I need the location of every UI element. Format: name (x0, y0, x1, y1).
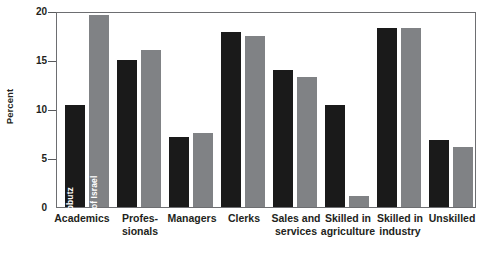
x-label-unskilled-line1: Unskilled (429, 212, 476, 224)
bar-kibbutz-academics: Kibbutz (65, 105, 85, 207)
bar-kibbutz-skilled-in-industry (377, 28, 397, 207)
bar-rest-of-israel-skilled-in-agriculture (349, 196, 369, 207)
y-tick-mark-15 (48, 61, 56, 62)
bar-rest-of-israel-clerks (245, 36, 265, 208)
x-label-professionals-line2: sionals (102, 225, 178, 238)
x-label-skilled-in-industry-line2: industry (362, 225, 438, 238)
bar-kibbutz-unskilled (429, 140, 449, 207)
bar-group-unskilled (429, 13, 477, 207)
bar-group-academics: Kibbutz Rest of Israel (65, 13, 113, 207)
y-tick-mark-5 (48, 159, 56, 160)
bar-chart-figure: Percent 20 15 10 5 0 Kibbutz Rest of Isr… (0, 0, 483, 253)
plot-area: Kibbutz Rest of Israel (56, 12, 476, 208)
y-axis-title: Percent (2, 0, 18, 212)
bar-kibbutz-managers (169, 137, 189, 207)
bar-kibbutz-clerks (221, 32, 241, 207)
bar-kibbutz-skilled-in-agriculture (325, 105, 345, 207)
x-label-professionals-line1: Profes- (122, 212, 158, 224)
bar-kibbutz-professionals (117, 60, 137, 207)
bar-rest-of-israel-academics: Rest of Israel (89, 15, 109, 207)
y-tick-mark-10 (48, 110, 56, 111)
y-axis-title-text: Percent (5, 88, 16, 124)
bar-rest-of-israel-managers (193, 133, 213, 207)
bar-group-managers (169, 13, 217, 207)
bar-kibbutz-sales-and-services (273, 70, 293, 207)
bar-group-skilled-in-agriculture (325, 13, 373, 207)
bar-rest-of-israel-skilled-in-industry (401, 28, 421, 207)
bar-group-professionals (117, 13, 165, 207)
bars-layer: Kibbutz Rest of Israel (57, 13, 475, 207)
x-axis-labels: Academics Profes- sionals Managers Clerk… (56, 212, 476, 252)
y-tick-mark-20 (48, 12, 56, 13)
x-label-clerks-line1: Clerks (228, 212, 260, 224)
bar-rest-of-israel-sales-and-services (297, 77, 317, 207)
bar-rest-of-israel-professionals (141, 50, 161, 207)
x-label-unskilled: Unskilled (414, 212, 483, 225)
bar-group-clerks (221, 13, 269, 207)
bar-rest-of-israel-unskilled (453, 147, 473, 207)
bar-group-sales-and-services (273, 13, 321, 207)
bar-group-skilled-in-industry (377, 13, 425, 207)
